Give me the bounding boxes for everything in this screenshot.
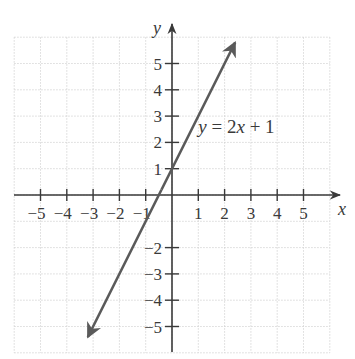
y-tick-label: 2	[154, 133, 163, 152]
x-tick-label: −2	[106, 204, 124, 223]
x-tick-label: −5	[27, 204, 45, 223]
x-tick-label: 1	[194, 204, 203, 223]
x-tick-label: −3	[80, 204, 98, 223]
y-tick-label: 3	[154, 107, 163, 126]
equation-label: y = 2x + 1	[196, 116, 274, 137]
x-tick-label: −4	[54, 204, 73, 223]
y-tick-label: −2	[144, 239, 162, 258]
y-tick-label: 1	[154, 160, 163, 179]
x-tick-label: 3	[247, 204, 256, 223]
x-tick-label: 2	[220, 204, 229, 223]
y-tick-label: 4	[154, 81, 163, 100]
line-segment-lower	[88, 190, 162, 337]
x-tick-label: −1	[133, 204, 151, 223]
y-tick-label: −5	[144, 318, 162, 337]
y-tick-label: 5	[154, 55, 163, 74]
x-axis-label: x	[337, 199, 346, 219]
y-tick-label: −3	[144, 265, 162, 284]
coordinate-plane: −5−4−3−2−112345−5−4−3−212345 x y y = 2x …	[0, 0, 355, 359]
y-axis-label: y	[151, 18, 161, 38]
y-axis	[165, 24, 179, 352]
y-tick-label: −4	[144, 291, 163, 310]
x-axis	[14, 189, 340, 201]
x-tick-label: 4	[273, 204, 282, 223]
x-tick-label: 5	[299, 204, 308, 223]
